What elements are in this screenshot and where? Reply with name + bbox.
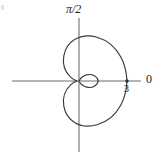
radial-tick-label-3: 3	[124, 84, 129, 94]
axis-label-polar-zero: 0	[146, 73, 152, 85]
axis-label-pi-over-2: π/2	[66, 3, 81, 15]
polar-plot-figure: π/2 0 3	[0, 0, 161, 164]
polar-plot-canvas	[0, 0, 161, 164]
